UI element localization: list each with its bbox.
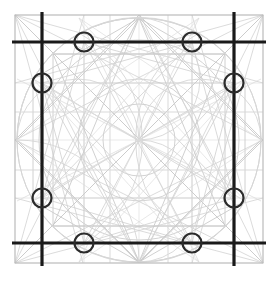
construction-diagram [0, 0, 278, 286]
geometry-figure [0, 0, 278, 286]
